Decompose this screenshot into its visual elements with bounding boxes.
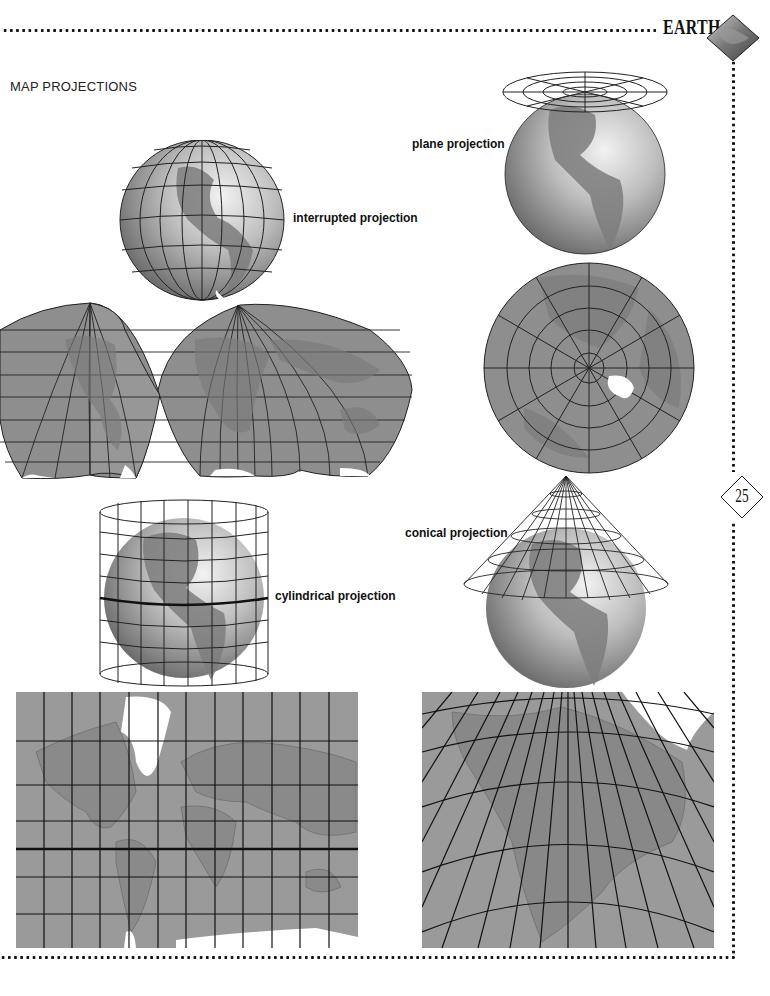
- bottom-dotted-rule: [0, 956, 735, 959]
- conic-north-america-map: [422, 692, 714, 948]
- page-number-badge: 25: [720, 475, 764, 519]
- azimuthal-polar-map: [479, 258, 699, 478]
- label-plane-projection: plane projection: [412, 137, 505, 151]
- globe-with-cone: [462, 474, 674, 690]
- right-dotted-rule: [732, 60, 735, 472]
- diamond-globe-emblem-icon: [705, 14, 761, 62]
- right-dotted-rule-lower: [732, 522, 735, 958]
- globe-with-tangent-plane: [500, 70, 670, 256]
- mercator-world-map: [16, 692, 358, 948]
- interrupted-homolosine-world-map: [0, 300, 420, 480]
- section-title: MAP PROJECTIONS: [10, 79, 137, 94]
- label-interrupted-projection: interrupted projection: [293, 211, 418, 225]
- page-number: 25: [727, 485, 758, 507]
- label-cylindrical-projection: cylindrical projection: [275, 589, 396, 603]
- globe-with-peeled-gores: [118, 140, 288, 302]
- globe-inside-cylinder: [96, 498, 272, 688]
- top-dotted-rule: [2, 29, 658, 32]
